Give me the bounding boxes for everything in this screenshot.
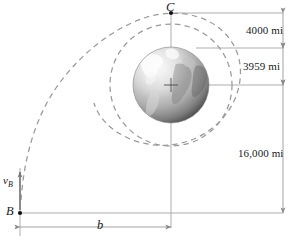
dimension-label-4000mi: 4000 mi bbox=[246, 25, 283, 36]
dimension-label-3959mi: 3959 mi bbox=[243, 61, 280, 72]
dimension-label-16000mi: 16,000 mi bbox=[238, 148, 284, 159]
orbit-diagram-figure: 4000 mi 3959 mi 16,000 mi C B vB b bbox=[0, 0, 291, 243]
point-label-C: C bbox=[166, 1, 174, 14]
dimension-label-b: b bbox=[97, 219, 103, 232]
velocity-label-vB: vB bbox=[3, 175, 13, 189]
point-label-B: B bbox=[6, 205, 14, 218]
trajectory-curve bbox=[21, 13, 240, 200]
velocity-subscript: B bbox=[8, 180, 13, 189]
point-marker-B bbox=[18, 211, 22, 215]
earth-globe bbox=[133, 47, 212, 124]
diagram-canvas bbox=[0, 0, 291, 243]
